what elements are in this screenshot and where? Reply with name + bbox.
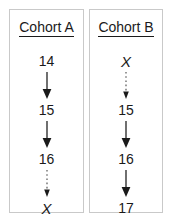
cohort-a-arrow-1-solid (40, 71, 54, 101)
cohort-b-arrow-1-dotted (119, 71, 133, 101)
cohort-b-node-2: 15 (118, 103, 134, 118)
cohort-b-arrow-2-solid (119, 120, 133, 150)
cohort-a-arrow-2-solid (40, 120, 54, 150)
cohort-b-chain: X 15 16 17 (90, 54, 162, 214)
cohort-b-node-1: X (121, 54, 131, 69)
cohort-a-title-label: Cohort A (19, 19, 73, 37)
cohort-b-box: Cohort B X 15 16 (89, 9, 163, 213)
cohort-b-arrow-3-solid (119, 169, 133, 199)
cohort-a-box: Cohort A 14 15 16 (9, 9, 84, 213)
cohort-b-node-4: 17 (118, 201, 134, 216)
cohort-b-node-3: 16 (118, 152, 134, 167)
cohort-a-node-3: 16 (39, 152, 55, 167)
cohort-a-node-4: X (41, 201, 51, 216)
cohort-a-chain: 14 15 16 X (10, 54, 83, 214)
cohort-a-title: Cohort A (10, 19, 83, 35)
cohort-diagram: Cohort A 14 15 16 (0, 0, 172, 224)
cohort-b-title-label: Cohort B (98, 19, 153, 37)
cohort-a-arrow-3-dotted (40, 169, 54, 199)
cohort-b-title: Cohort B (90, 19, 162, 35)
cohort-a-node-2: 15 (39, 103, 55, 118)
cohort-a-node-1: 14 (39, 54, 55, 69)
